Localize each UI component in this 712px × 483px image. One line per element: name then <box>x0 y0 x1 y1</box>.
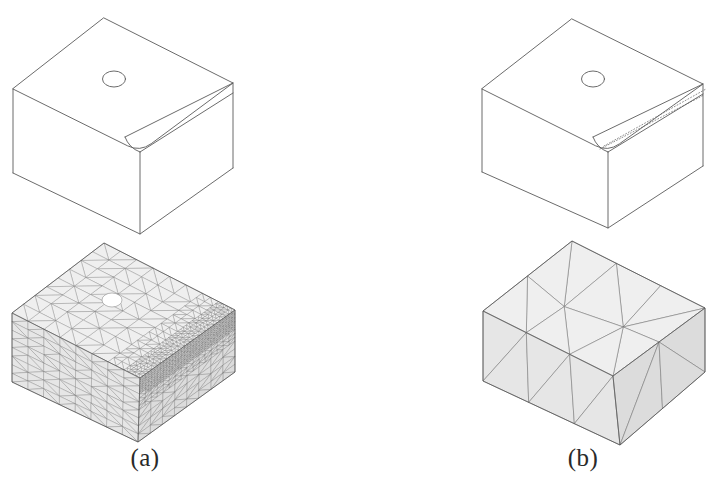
figure-container: (a) (b) <box>0 0 712 483</box>
chamfered-block-solid-a <box>13 18 233 234</box>
figure-drawing-canvas <box>0 0 712 483</box>
chamfered-block-solid-b <box>482 19 706 228</box>
panel-caption-a: (a) <box>110 445 180 470</box>
fine-tetrahedral-mesh-a <box>12 243 235 442</box>
panel-caption-b: (b) <box>548 445 618 470</box>
coarse-tetrahedral-mesh-b <box>483 241 705 445</box>
panel-a <box>12 18 235 442</box>
mesh-top-face-hole <box>102 293 122 307</box>
panel-b <box>482 19 706 445</box>
